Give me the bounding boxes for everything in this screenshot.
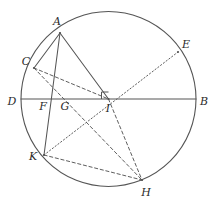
point-label-c: C xyxy=(22,56,30,67)
segment-ch xyxy=(34,68,142,180)
point-dot-c xyxy=(33,67,35,69)
point-label-d: D xyxy=(8,96,17,107)
point-label-h: H xyxy=(141,187,151,198)
point-label-b: B xyxy=(200,96,208,107)
point-label-i: I xyxy=(106,103,110,114)
point-dot-h xyxy=(141,179,143,181)
point-label-g: G xyxy=(61,101,70,112)
point-label-k: K xyxy=(29,151,37,162)
point-dot-i xyxy=(107,98,109,100)
point-dot-e xyxy=(177,51,179,53)
point-dot-a xyxy=(59,32,61,34)
segment-kh xyxy=(44,155,142,180)
point-label-a: A xyxy=(53,16,61,27)
point-label-f: F xyxy=(39,101,47,112)
point-label-e: E xyxy=(182,39,190,50)
point-dot-k xyxy=(43,154,45,156)
geometry-figure: AECDBFGIKH xyxy=(0,0,217,211)
segment-ih xyxy=(109,99,143,180)
